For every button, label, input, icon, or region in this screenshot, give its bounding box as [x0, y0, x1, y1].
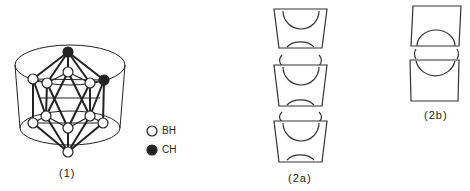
- ch-atom: [63, 47, 73, 57]
- diagram-canvas: [0, 0, 470, 191]
- bh-atom: [63, 147, 73, 157]
- label-structure-2a: (2a): [288, 172, 312, 184]
- carborane-structure-1: [15, 45, 125, 157]
- bh-atom: [85, 78, 95, 88]
- legend-ch-text: CH: [162, 144, 176, 155]
- bh-atom: [63, 67, 73, 77]
- bh-atom: [98, 118, 108, 128]
- ch-atom: [99, 75, 109, 85]
- legend-symbols: [147, 126, 157, 155]
- sphere-right: [457, 49, 459, 59]
- bh-atom: [42, 78, 52, 88]
- bh-atom: [41, 111, 51, 121]
- trapezoid-bottom: [410, 60, 459, 101]
- label-structure-1: (1): [59, 167, 75, 179]
- cylinder-right-wall: [120, 65, 125, 128]
- bh-atom: [63, 123, 73, 133]
- bh-atom: [28, 74, 38, 84]
- label-structure-2b: (2b): [424, 109, 448, 121]
- cylinder-left-wall: [15, 65, 20, 128]
- sphere-right-1: [319, 55, 322, 66]
- structure-2a: [274, 9, 327, 162]
- structure-2b: [410, 6, 461, 101]
- open-circle-icon: [147, 126, 157, 136]
- filled-circle-icon: [147, 145, 157, 155]
- sphere-left-1: [280, 55, 283, 66]
- bh-atom: [85, 111, 95, 121]
- bh-atom: [28, 118, 38, 128]
- sphere-left: [415, 49, 417, 59]
- legend-bh-text: BH: [162, 125, 176, 136]
